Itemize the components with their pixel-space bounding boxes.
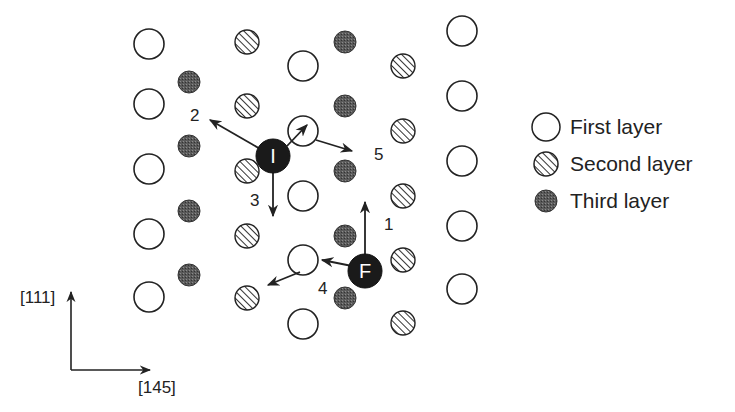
jump-label: 1 [384,215,393,234]
defect-label: I [270,145,276,167]
legend-item-third-layer: Third layer [530,182,693,219]
second-layer-atom [235,159,259,183]
second-layer-atom [391,248,415,272]
second-layer-atom [391,311,415,335]
first-layer-atom [288,245,318,275]
jump-label: 3 [250,191,259,210]
first-layer-atom [134,89,164,119]
legend-label: Third layer [570,189,669,213]
third-layer-atom [178,264,200,286]
first-layer-atoms [134,16,477,339]
first-layer-atom [288,309,318,339]
open-circle-icon [530,111,562,143]
axis-horizontal-label: [145] [138,378,176,397]
jump-arrow [316,140,352,151]
third-layer-atom [334,95,356,117]
second-layer-atom [391,119,415,143]
legend-item-first-layer: First layer [530,108,693,145]
first-layer-atom [134,29,164,59]
first-layer-atom [447,81,477,111]
third-layer-atom [178,71,200,93]
defect-label: F [359,260,371,282]
third-layer-atom [178,135,200,157]
legend: First layer Second layer Third layer [530,108,693,219]
first-layer-atom [288,51,318,81]
jump-label: 4 [318,279,327,298]
first-layer-atom [447,146,477,176]
dark-dotted-circle-icon [530,185,562,217]
second-layer-atom [235,286,259,310]
third-layer-atom [334,31,356,53]
jump-arrow [210,120,262,150]
second-layer-atom [235,224,259,248]
first-layer-atom [134,154,164,184]
jump-label: 5 [374,145,383,164]
legend-item-second-layer: Second layer [530,145,693,182]
third-layer-atom [334,160,356,182]
jump-arrow [268,272,300,285]
third-layer-atom [334,287,356,309]
axis-vertical-label: [111] [20,288,55,307]
second-layer-atom [235,30,259,54]
jump-label: 2 [190,106,199,125]
first-layer-atom [134,219,164,249]
legend-label: First layer [570,115,662,139]
second-layer-atom [235,94,259,118]
first-layer-atom [447,274,477,304]
first-layer-atom [134,282,164,312]
jump-arrow [322,260,352,266]
defect-atoms: IF [256,139,382,288]
second-layer-atom [391,54,415,78]
legend-label: Second layer [570,152,693,176]
third-layer-atom [178,200,200,222]
first-layer-atom [447,16,477,46]
third-layer-atom [334,225,356,247]
first-layer-atom [447,211,477,241]
hatched-circle-icon [530,148,562,180]
first-layer-atom [288,181,318,211]
second-layer-atom [391,184,415,208]
